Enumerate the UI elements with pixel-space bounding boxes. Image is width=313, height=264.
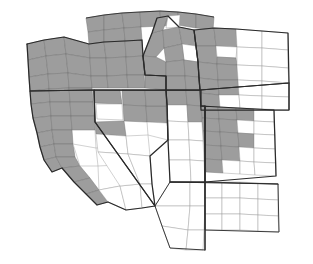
county-polygon[interactable] (258, 215, 279, 232)
county-polygon[interactable] (106, 57, 127, 76)
county-polygon[interactable] (94, 90, 122, 104)
county-polygon[interactable] (216, 46, 237, 58)
county-polygon[interactable] (187, 105, 202, 122)
county-polygon[interactable] (166, 60, 185, 76)
county-polygon[interactable] (205, 159, 223, 173)
county-polygon[interactable] (218, 107, 237, 120)
county-polygon[interactable] (90, 58, 107, 76)
county-polygon[interactable] (48, 73, 69, 89)
county-polygon[interactable] (104, 13, 124, 30)
county-polygon[interactable] (28, 56, 48, 77)
western-us-choropleth-map[interactable] (0, 0, 313, 264)
county-polygon[interactable] (166, 76, 186, 90)
county-polygon[interactable] (189, 140, 204, 161)
county-polygon[interactable] (188, 206, 205, 230)
county-polygon[interactable] (145, 90, 166, 106)
county-polygon[interactable] (205, 182, 222, 198)
county-polygon[interactable] (96, 104, 123, 120)
county-polygon[interactable] (127, 75, 145, 88)
county-polygon[interactable] (190, 182, 205, 206)
county-polygon[interactable] (169, 160, 191, 182)
county-polygon[interactable] (262, 96, 289, 110)
county-polygon[interactable] (168, 121, 189, 140)
state-group-colorado[interactable] (201, 106, 276, 176)
county-polygon[interactable] (219, 95, 240, 108)
county-polygon[interactable] (107, 75, 128, 88)
county-polygon[interactable] (254, 162, 276, 176)
county-polygon[interactable] (198, 62, 218, 80)
county-polygon[interactable] (222, 182, 240, 198)
county-polygon[interactable] (54, 144, 75, 157)
county-polygon[interactable] (221, 146, 240, 161)
county-polygon[interactable] (146, 106, 167, 123)
county-polygon[interactable] (125, 40, 143, 57)
county-polygon[interactable] (217, 57, 237, 65)
county-polygon[interactable] (201, 106, 219, 119)
county-polygon[interactable] (178, 12, 196, 28)
county-polygon[interactable] (188, 122, 203, 141)
county-polygon[interactable] (236, 29, 262, 48)
county-polygon[interactable] (254, 121, 275, 135)
state-group-montana[interactable] (194, 28, 289, 83)
county-polygon[interactable] (70, 102, 94, 116)
county-polygon[interactable] (262, 48, 288, 68)
county-polygon[interactable] (262, 66, 289, 83)
county-polygon[interactable] (240, 198, 258, 215)
county-polygon[interactable] (52, 130, 73, 144)
county-polygon[interactable] (185, 76, 200, 90)
county-polygon[interactable] (238, 133, 254, 148)
county-polygon[interactable] (217, 64, 238, 80)
county-polygon[interactable] (104, 41, 126, 58)
county-polygon[interactable] (237, 47, 262, 66)
county-polygon[interactable] (31, 102, 51, 118)
county-polygon[interactable] (122, 90, 146, 106)
county-polygon[interactable] (122, 12, 141, 28)
county-polygon[interactable] (89, 42, 106, 58)
county-polygon[interactable] (219, 119, 238, 133)
county-polygon[interactable] (124, 27, 142, 41)
county-polygon[interactable] (254, 134, 275, 149)
county-polygon[interactable] (123, 105, 147, 122)
county-polygon[interactable] (91, 76, 108, 88)
county-polygon[interactable] (204, 145, 222, 160)
county-polygon[interactable] (258, 199, 278, 216)
county-polygon[interactable] (238, 80, 262, 96)
state-group-new-mexico[interactable] (205, 182, 279, 232)
county-polygon[interactable] (237, 120, 254, 134)
county-polygon[interactable] (190, 160, 205, 182)
county-polygon[interactable] (222, 214, 240, 230)
county-polygon[interactable] (240, 214, 258, 231)
county-polygon[interactable] (166, 90, 187, 105)
county-polygon[interactable] (205, 198, 222, 214)
county-polygon[interactable] (46, 54, 68, 74)
county-polygon[interactable] (199, 78, 219, 95)
county-polygon[interactable] (186, 90, 201, 106)
county-polygon[interactable] (237, 65, 262, 81)
county-polygon[interactable] (240, 182, 258, 199)
county-polygon[interactable] (254, 148, 276, 163)
county-polygon[interactable] (258, 183, 278, 200)
county-polygon[interactable] (29, 74, 49, 91)
county-polygon[interactable] (96, 134, 128, 154)
county-polygon[interactable] (145, 75, 166, 90)
county-polygon[interactable] (167, 105, 188, 122)
county-polygon[interactable] (239, 147, 254, 162)
county-polygon[interactable] (220, 132, 239, 147)
county-polygon[interactable] (126, 135, 150, 156)
state-group-oregon[interactable] (27, 37, 145, 91)
county-polygon[interactable] (186, 230, 204, 250)
county-polygon[interactable] (196, 46, 217, 64)
county-polygon[interactable] (194, 28, 216, 46)
county-polygon[interactable] (214, 28, 237, 47)
state-group-wyoming[interactable] (199, 78, 289, 110)
county-polygon[interactable] (203, 131, 221, 146)
county-polygon[interactable] (205, 214, 222, 230)
county-polygon[interactable] (50, 102, 71, 116)
county-polygon[interactable] (168, 140, 190, 160)
county-polygon[interactable] (254, 109, 274, 122)
county-polygon[interactable] (126, 56, 144, 75)
county-polygon[interactable] (51, 116, 72, 130)
county-polygon[interactable] (262, 31, 288, 50)
county-polygon[interactable] (222, 160, 240, 174)
county-polygon[interactable] (71, 116, 95, 130)
